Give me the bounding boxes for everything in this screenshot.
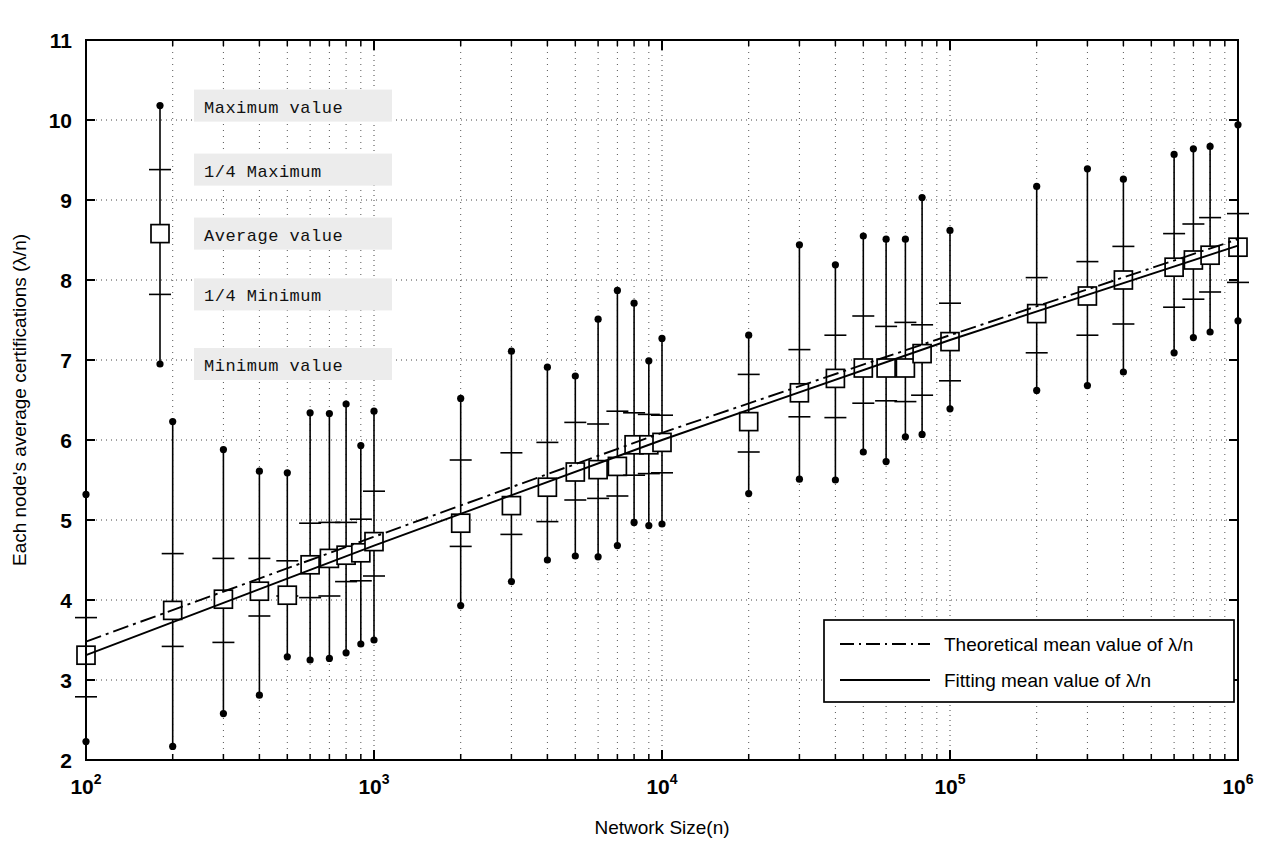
error-bar — [212, 446, 234, 717]
max-value-dot — [256, 468, 263, 475]
error-bar — [248, 468, 270, 699]
error-bar — [1026, 183, 1048, 394]
x-tick-label: 102 — [70, 771, 101, 798]
max-value-dot — [1120, 176, 1127, 183]
min-value-dot — [256, 692, 263, 699]
max-value-dot — [902, 236, 909, 243]
sample-legend-max-icon — [156, 102, 163, 109]
error-bar — [738, 332, 760, 498]
min-value-dot — [946, 405, 953, 412]
x-tick-label: 104 — [646, 771, 677, 798]
max-value-dot — [1033, 183, 1040, 190]
max-value-dot — [169, 418, 176, 425]
x-tick-label: 105 — [934, 771, 965, 798]
y-tick-label: 6 — [60, 429, 72, 452]
max-value-dot — [284, 469, 291, 476]
error-bar — [318, 410, 340, 662]
max-value-dot — [1171, 151, 1178, 158]
average-value-square — [1078, 287, 1096, 305]
min-value-dot — [832, 476, 839, 483]
average-value-square — [278, 586, 296, 604]
y-tick-label: 9 — [60, 189, 72, 212]
max-value-dot — [572, 372, 579, 379]
x-tick-label: 103 — [358, 771, 389, 798]
y-tick-label: 5 — [60, 509, 72, 532]
max-value-dot — [796, 241, 803, 248]
y-tick-label: 11 — [50, 29, 73, 52]
error-bar — [335, 400, 357, 656]
line-legend-label-2: Fitting mean value of λ/n — [944, 670, 1151, 691]
min-value-dot — [796, 476, 803, 483]
max-value-dot — [946, 227, 953, 234]
error-bar — [1076, 165, 1098, 389]
average-value-square — [896, 359, 914, 377]
x-tick-label: 106 — [1222, 771, 1253, 798]
error-bar — [651, 335, 673, 528]
min-value-dot — [370, 636, 377, 643]
y-tick-label: 8 — [60, 269, 72, 292]
max-value-dot — [326, 410, 333, 417]
max-value-dot — [832, 261, 839, 268]
min-value-dot — [1033, 387, 1040, 394]
max-value-dot — [1206, 143, 1213, 150]
min-value-dot — [326, 655, 333, 662]
min-value-dot — [357, 640, 364, 647]
sample-legend-min-icon — [156, 360, 163, 367]
max-value-dot — [630, 300, 637, 307]
error-bar — [1182, 145, 1204, 341]
min-value-dot — [595, 553, 602, 560]
y-tick-label: 7 — [60, 349, 72, 372]
chart-svg: 234567891011102103104105106Network Size(… — [0, 0, 1263, 856]
min-value-dot — [1190, 334, 1197, 341]
max-value-dot — [595, 316, 602, 323]
sample-legend-label: Minimum value — [204, 357, 343, 376]
average-value-square — [1114, 271, 1132, 289]
error-bar — [939, 227, 961, 413]
max-value-dot — [1084, 165, 1091, 172]
sample-legend-avg-icon — [151, 225, 169, 243]
line-legend-label-1: Theoretical mean value of λ/n — [944, 634, 1193, 655]
max-value-dot — [658, 335, 665, 342]
min-value-dot — [645, 522, 652, 529]
max-value-dot — [860, 232, 867, 239]
y-tick-label: 10 — [49, 109, 72, 132]
max-value-dot — [614, 287, 621, 294]
error-bar — [500, 348, 522, 586]
error-bar — [299, 409, 321, 663]
y-axis-title: Each node's average certifications (λ/n) — [9, 234, 30, 566]
error-bar — [587, 316, 609, 561]
error-bar — [788, 241, 810, 483]
min-value-dot — [508, 578, 515, 585]
min-value-dot — [630, 519, 637, 526]
max-value-dot — [645, 357, 652, 364]
average-value-square — [740, 413, 758, 431]
min-value-dot — [1206, 328, 1213, 335]
error-bar — [824, 261, 846, 483]
y-tick-label: 4 — [60, 589, 72, 612]
error-bar — [162, 418, 184, 750]
min-value-dot — [342, 649, 349, 656]
max-value-dot — [220, 446, 227, 453]
line-legend[interactable]: Theoretical mean value of λ/nFitting mea… — [824, 620, 1234, 702]
min-value-dot — [883, 458, 890, 465]
max-value-dot — [370, 408, 377, 415]
error-bar — [894, 236, 916, 441]
sample-legend-label: 1/4 Minimum — [204, 287, 322, 306]
max-value-dot — [883, 236, 890, 243]
max-value-dot — [457, 395, 464, 402]
min-value-dot — [284, 653, 291, 660]
sample-legend-label: Maximum value — [204, 99, 343, 118]
y-tick-label: 3 — [60, 669, 72, 692]
max-value-dot — [307, 409, 314, 416]
x-axis-title: Network Size(n) — [594, 817, 729, 838]
min-value-dot — [614, 542, 621, 549]
error-bar — [276, 469, 298, 660]
average-value-square — [538, 478, 556, 496]
average-value-square — [608, 457, 626, 475]
average-value-square — [502, 497, 520, 515]
min-value-dot — [169, 743, 176, 750]
error-bar — [606, 287, 628, 549]
min-value-dot — [544, 556, 551, 563]
min-value-dot — [658, 520, 665, 527]
sample-legend: Maximum value1/4 MaximumAverage value1/4… — [149, 90, 392, 380]
